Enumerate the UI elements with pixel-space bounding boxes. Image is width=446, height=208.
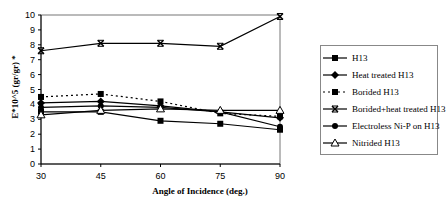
square-marker-icon — [321, 87, 349, 97]
x-axis-label: Angle of Incidence (deg.) — [120, 186, 280, 196]
legend-label: Borided H13 — [352, 87, 399, 97]
y-tick-label: 8 — [30, 40, 35, 50]
legend-label: Nitrided H13 — [352, 138, 400, 148]
diamond-marker-icon — [321, 70, 349, 80]
legend-item: Nitrided H13 — [321, 134, 437, 151]
y-tick-label: 5 — [30, 85, 35, 95]
y-tick-label: 6 — [30, 70, 35, 80]
x-tick-label: 90 — [275, 171, 285, 181]
x-tick-label: 45 — [96, 171, 106, 181]
legend-item: H13 — [321, 49, 437, 66]
legend-label: H13 — [352, 53, 368, 63]
legend-label: Borided+heat treated H13 — [352, 104, 446, 114]
y-tick-label: 1 — [30, 144, 35, 154]
triangle-marker-icon — [321, 138, 349, 148]
x-tick-label: 60 — [155, 171, 165, 181]
x-tick-label: 30 — [36, 171, 46, 181]
square-marker-icon — [321, 53, 349, 63]
y-tick-label: 10 — [25, 10, 35, 20]
circle-marker-icon — [321, 121, 349, 131]
legend-item: Borided+heat treated H13 — [321, 100, 437, 117]
y-tick-label: 0 — [30, 159, 35, 169]
y-tick-label: 2 — [30, 129, 35, 139]
legend-item: Heat treated H13 — [321, 66, 437, 83]
x-marker-icon — [321, 104, 349, 114]
chart-legend: H13Heat treated H13Borided H13Borided+he… — [320, 45, 438, 155]
y-tick-label: 4 — [30, 99, 35, 109]
y-tick-label: 3 — [30, 114, 35, 124]
y-tick-label: 9 — [30, 25, 35, 35]
legend-label: Electroless Ni-P on H13 — [352, 121, 439, 131]
legend-item: Borided H13 — [321, 83, 437, 100]
x-tick-label: 75 — [215, 171, 225, 181]
series-borided-heat-treated-h13 — [38, 13, 283, 53]
legend-label: Heat treated H13 — [352, 70, 413, 80]
legend-item: Electroless Ni-P on H13 — [321, 117, 437, 134]
y-tick-label: 7 — [30, 55, 35, 65]
y-axis-label: E*10^5 (gr/gr) * — [10, 42, 20, 132]
